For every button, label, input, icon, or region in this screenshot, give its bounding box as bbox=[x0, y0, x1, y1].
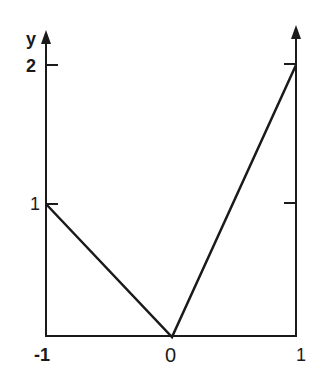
y-axis-label: y bbox=[26, 30, 36, 48]
chart-plot bbox=[0, 0, 318, 373]
y-tick-label-1: 1 bbox=[30, 195, 40, 213]
data-line bbox=[46, 65, 296, 337]
x-tick-label-neg1: -1 bbox=[34, 346, 50, 364]
x-tick-label-0: 0 bbox=[165, 345, 176, 365]
right-axis-arrow-icon bbox=[291, 25, 301, 39]
x-tick-label-1: 1 bbox=[296, 346, 306, 364]
y-tick-label-2: 2 bbox=[26, 57, 36, 75]
left-axis-arrow-icon bbox=[41, 30, 51, 44]
